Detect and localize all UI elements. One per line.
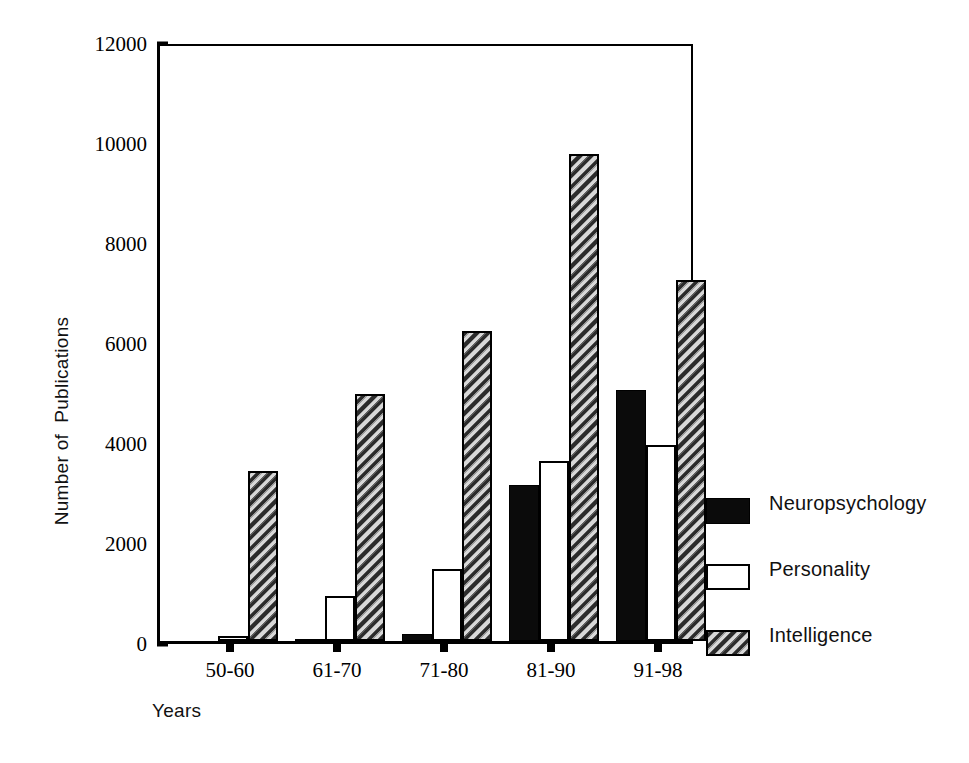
x-tick-mark xyxy=(654,644,662,652)
bar-intelligence-71-80 xyxy=(462,331,492,641)
legend-label: Neuropsychology xyxy=(769,492,927,515)
y-tick-label: 8000 xyxy=(85,232,147,257)
bar-personality-91-98 xyxy=(646,445,676,642)
y-tick-label: 6000 xyxy=(85,332,147,357)
legend-swatch-diagonal-hatch xyxy=(706,630,750,656)
bar-neuropsychology-81-90 xyxy=(509,485,539,642)
y-axis-title: Number of Publications xyxy=(51,291,73,551)
legend-swatch-white-outline xyxy=(706,564,750,590)
y-axis-tick-labels: 020004000600080001000012000 xyxy=(85,0,147,763)
bar-neuropsychology-91-98 xyxy=(616,390,646,642)
x-tick-label-61-70: 61-70 xyxy=(282,658,392,683)
x-tick-label-91-98: 91-98 xyxy=(603,658,713,683)
y-tick-label: 2000 xyxy=(85,532,147,557)
legend-item-neuropsychology: Neuropsychology xyxy=(706,492,956,558)
bar-neuropsychology-61-70 xyxy=(295,639,325,641)
x-tick-mark xyxy=(226,644,234,652)
bar-intelligence-81-90 xyxy=(569,154,599,642)
x-tick-mark xyxy=(333,644,341,652)
x-tick-mark xyxy=(440,644,448,652)
y-tick-label: 4000 xyxy=(85,432,147,457)
legend-label: Intelligence xyxy=(769,624,873,647)
bar-intelligence-91-98 xyxy=(676,280,706,642)
bar-chart-figure: Number of Publications Years 02000400060… xyxy=(0,0,969,763)
bar-intelligence-50-60 xyxy=(248,471,278,641)
chart-legend: NeuropsychologyPersonalityIntelligence xyxy=(706,492,956,690)
x-tick-label-71-80: 71-80 xyxy=(389,658,499,683)
x-tick-mark xyxy=(547,644,555,652)
bar-intelligence-61-70 xyxy=(355,394,385,642)
y-tick-label: 0 xyxy=(85,632,147,657)
legend-item-intelligence: Intelligence xyxy=(706,624,956,690)
legend-swatch-solid-black xyxy=(706,498,750,524)
bar-personality-81-90 xyxy=(539,461,569,641)
bar-neuropsychology-71-80 xyxy=(402,634,432,642)
y-tick-label: 10000 xyxy=(85,132,147,157)
x-tick-label-50-60: 50-60 xyxy=(175,658,285,683)
bar-personality-50-60 xyxy=(218,636,248,642)
x-axis-title: Years xyxy=(152,700,201,722)
plot-area xyxy=(157,44,693,644)
legend-label: Personality xyxy=(769,558,870,581)
legend-item-personality: Personality xyxy=(706,558,956,624)
bar-personality-61-70 xyxy=(325,596,355,641)
bar-personality-71-80 xyxy=(432,569,462,642)
y-tick-label: 12000 xyxy=(85,32,147,57)
x-tick-label-81-90: 81-90 xyxy=(496,658,606,683)
